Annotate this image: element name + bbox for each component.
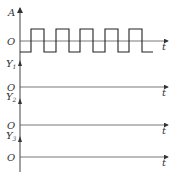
t-label-y1: t (162, 87, 167, 98)
origin-label-a: O (7, 36, 15, 47)
origin-label-y3: O (7, 152, 15, 163)
label-a: A (7, 7, 15, 18)
t-label-a: t (162, 41, 167, 52)
label-y1: Y1 (6, 58, 16, 70)
t-label-y3: t (162, 157, 167, 168)
t-label-y2: t (162, 125, 167, 136)
timing-diagram: A O t Y1 O t Y2 O t Y3 O t (0, 0, 179, 181)
label-y3: Y3 (6, 130, 17, 142)
square-wave (20, 29, 153, 52)
